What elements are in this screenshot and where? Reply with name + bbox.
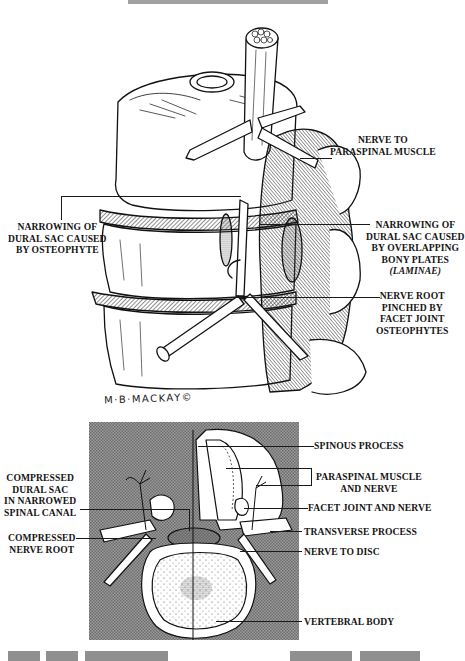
label-line: COMPRESSED bbox=[4, 472, 76, 484]
label-compressed-dural-sac: COMPRESSED DURAL SAC IN NARROWED SPINAL … bbox=[4, 472, 76, 518]
leader-paraspinal-muscle bbox=[226, 468, 312, 469]
label-nerve-to-disc: NERVE TO DISC bbox=[304, 546, 380, 558]
label-line: NARROWING OF bbox=[8, 221, 107, 233]
cutoff-caption-left bbox=[8, 651, 168, 661]
label-line: BONY PLATES bbox=[366, 254, 465, 266]
leader-narrowing-osteophyte-v bbox=[61, 196, 62, 220]
leader-spinous-process bbox=[198, 446, 314, 447]
label-line: OSTEOPHYTES bbox=[376, 325, 449, 337]
label-line: DURAL SAC CAUSED bbox=[8, 233, 107, 245]
leader-nerve-root-pinched bbox=[232, 297, 380, 298]
leader-paraspinal-nerve bbox=[256, 485, 312, 486]
label-paraspinal-muscle: PARASPINAL MUSCLE AND NERVE bbox=[316, 471, 422, 494]
leader-compressed-dural-sac bbox=[80, 509, 190, 510]
leader-nerve-to-disc bbox=[240, 551, 302, 552]
label-line: DURAL SAC bbox=[4, 484, 76, 496]
leader-vertebral-body bbox=[216, 621, 302, 622]
label-line: SPINAL CANAL bbox=[4, 507, 76, 519]
label-narrowing-osteophyte: NARROWING OF DURAL SAC CAUSED BY OSTEOPH… bbox=[8, 221, 107, 256]
leader-compressed-dural-sac-v bbox=[189, 509, 190, 531]
leader-facet-joint bbox=[244, 508, 308, 509]
label-line: BY OVERLAPPING bbox=[366, 242, 465, 254]
leader-nerve-to-paraspinal bbox=[300, 158, 332, 159]
label-line: COMPRESSED bbox=[8, 532, 76, 544]
label-line: PARASPINAL MUSCLE bbox=[330, 146, 436, 158]
label-line: IN NARROWED bbox=[4, 495, 76, 507]
label-line: BY OSTEOPHYTE bbox=[8, 244, 107, 256]
leader-narrowing-laminae bbox=[260, 224, 370, 225]
label-compressed-nerve-root: COMPRESSED NERVE ROOT bbox=[8, 532, 76, 555]
label-facet-joint: FACET JOINT AND NERVE bbox=[308, 502, 432, 514]
label-line: AND NERVE bbox=[316, 483, 422, 495]
label-spinous-process: SPINOUS PROCESS bbox=[314, 440, 404, 452]
label-nerve-to-paraspinal: NERVE TO PARASPINAL MUSCLE bbox=[330, 134, 436, 157]
label-line: (LAMINAE) bbox=[366, 265, 465, 277]
label-line: NERVE ROOT bbox=[8, 544, 76, 556]
label-nerve-root-pinched: NERVE ROOT PINCHED BY FACET JOINT OSTEOP… bbox=[376, 290, 449, 336]
label-line: DURAL SAC CAUSED bbox=[366, 231, 465, 243]
label-line: NERVE TO bbox=[330, 134, 436, 146]
leader-transverse-process bbox=[270, 531, 302, 532]
label-line: PARASPINAL MUSCLE bbox=[316, 471, 422, 483]
leader-paraspinal-bracket bbox=[311, 468, 312, 485]
label-line: NARROWING OF bbox=[366, 219, 465, 231]
cutoff-caption-right bbox=[290, 651, 420, 661]
label-vertebral-body: VERTEBRAL BODY bbox=[304, 616, 394, 628]
leader-narrowing-osteophyte-h bbox=[61, 196, 241, 197]
label-transverse-process: TRANSVERSE PROCESS bbox=[304, 526, 417, 538]
cutoff-header bbox=[128, 0, 328, 4]
label-line: NERVE ROOT bbox=[376, 290, 449, 302]
label-narrowing-laminae: NARROWING OF DURAL SAC CAUSED BY OVERLAP… bbox=[366, 219, 465, 277]
leader-compressed-nerve-root bbox=[76, 538, 156, 539]
label-line: FACET JOINT bbox=[376, 313, 449, 325]
label-line: PINCHED BY bbox=[376, 302, 449, 314]
